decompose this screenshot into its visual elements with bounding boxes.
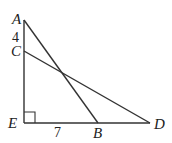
geometry-diagram: A 4 C E 7 B D: [0, 0, 172, 143]
point-label-C: C: [11, 43, 22, 59]
point-label-D: D: [153, 116, 165, 132]
right-angle-marker: [24, 112, 35, 123]
point-label-B: B: [93, 125, 102, 141]
point-label-E: E: [7, 115, 17, 131]
segment-CD: [24, 51, 150, 123]
measure-EB: 7: [54, 125, 61, 140]
point-label-A: A: [11, 11, 22, 27]
